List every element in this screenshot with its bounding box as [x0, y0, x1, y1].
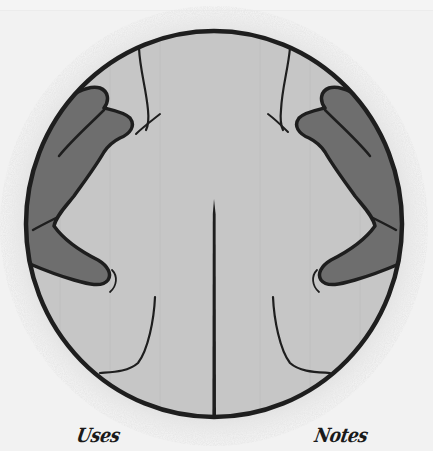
- notes-caption: Notes: [313, 424, 370, 447]
- massage-illustration: [0, 0, 433, 451]
- uses-caption: Uses: [75, 424, 122, 447]
- spine-line: [212, 199, 216, 418]
